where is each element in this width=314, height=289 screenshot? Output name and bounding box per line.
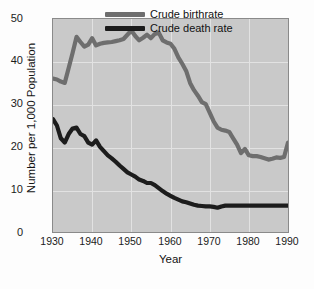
line-crude-death-rate: [53, 119, 288, 208]
chart-legend: Crude birthrate Crude death rate: [105, 8, 233, 34]
legend-swatch-death-rate: [105, 26, 145, 31]
y-axis-title: Number per 1,000 Population: [25, 18, 37, 218]
x-axis-tick-1940: 1940: [71, 236, 111, 247]
series-lines: [53, 19, 288, 232]
y-axis-tick-10: 10: [0, 184, 23, 195]
y-axis-tick-30: 30: [0, 98, 23, 109]
legend-label-birthrate: Crude birthrate: [150, 8, 223, 20]
legend-swatch-birthrate: [105, 12, 145, 17]
y-axis-tick-50: 50: [0, 13, 23, 24]
y-axis-tick-20: 20: [0, 141, 23, 152]
plot-area: [52, 18, 289, 233]
x-axis-tick-1930: 1930: [32, 236, 72, 247]
x-axis-tick-1960: 1960: [150, 236, 190, 247]
x-axis-tick-1980: 1980: [228, 236, 268, 247]
legend-label-death-rate: Crude death rate: [150, 22, 233, 34]
x-axis-tick-1950: 1950: [110, 236, 150, 247]
y-axis-tick-40: 40: [0, 55, 23, 66]
legend-item-crude-death-rate: Crude death rate: [105, 22, 233, 34]
y-axis-tick-0: 0: [0, 227, 23, 238]
chart-figure: 50 40 30 20 10 0 Number per 1,000 Popula…: [0, 0, 314, 289]
legend-item-crude-birthrate: Crude birthrate: [105, 8, 233, 20]
x-axis-tick-1970: 1970: [189, 236, 229, 247]
x-axis-tick-1990: 1990: [267, 236, 307, 247]
x-axis-title: Year: [52, 253, 289, 265]
